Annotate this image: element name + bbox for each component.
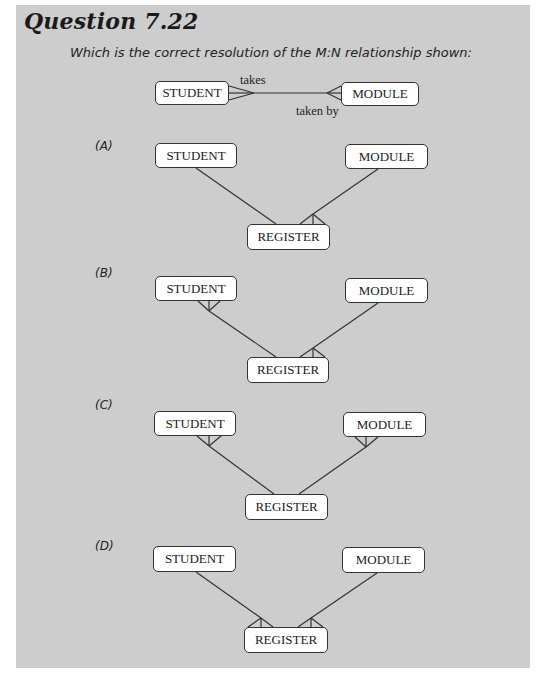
option-a-crowfoot-register-icon (300, 214, 325, 224)
option-c-crowfoot-student-icon (197, 436, 221, 446)
option-b-crowfoot-student-icon (198, 301, 220, 311)
crowfoot-module-icon (327, 86, 341, 100)
relationship-lines (0, 0, 546, 677)
crowfoot-student-icon (229, 86, 254, 100)
option-d-crowfoot-register-left-icon (248, 618, 273, 627)
option-d-crowfoot-register-right-icon (298, 618, 323, 627)
option-c-crowfoot-module-icon (355, 437, 378, 447)
option-b-crowfoot-register-icon (300, 348, 325, 357)
